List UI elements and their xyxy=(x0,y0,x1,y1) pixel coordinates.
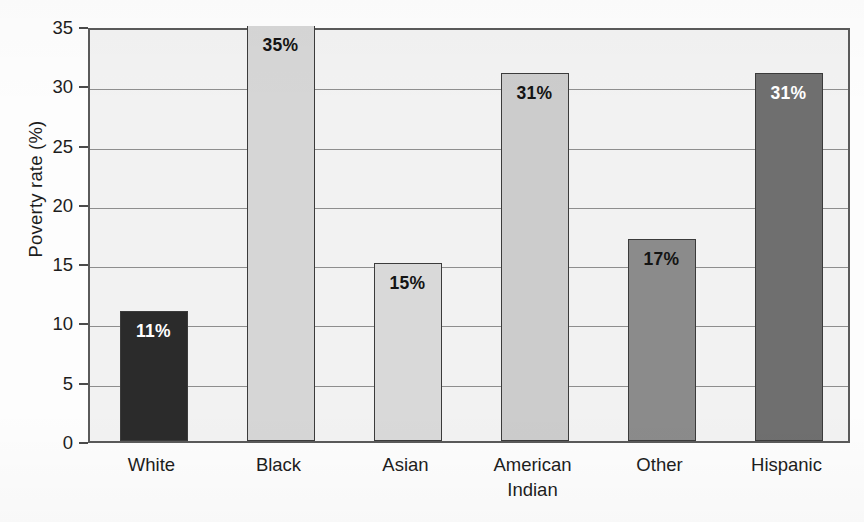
y-tick-mark xyxy=(79,383,88,385)
x-axis-category-label: American Indian xyxy=(469,452,596,502)
y-tick-mark xyxy=(79,27,88,29)
y-tick-mark xyxy=(79,146,88,148)
plot-area: 11%35%15%31%17%31% xyxy=(88,28,850,443)
y-tick-mark xyxy=(79,323,88,325)
bar-value-label: 31% xyxy=(756,83,822,104)
chart-figure: Poverty rate (%) 05101520253035 11%35%15… xyxy=(0,0,864,522)
gridline xyxy=(90,89,848,90)
y-tick-label: 0 xyxy=(25,434,73,453)
bar-value-label: 11% xyxy=(121,321,187,342)
bar-value-label: 31% xyxy=(502,83,568,104)
gridline xyxy=(90,386,848,387)
bar[interactable]: 31% xyxy=(501,73,569,441)
bar[interactable]: 35% xyxy=(247,26,315,441)
gridline xyxy=(90,149,848,150)
x-axis-category-label: Black xyxy=(215,452,342,477)
bar[interactable]: 11% xyxy=(120,311,188,441)
bar-value-label: 17% xyxy=(629,249,695,270)
plot-inner: 11%35%15%31%17%31% xyxy=(90,30,848,441)
y-tick-label: 5 xyxy=(25,375,73,394)
bar-value-label: 35% xyxy=(248,35,314,56)
bar-value-label: 15% xyxy=(375,273,441,294)
bar[interactable]: 17% xyxy=(628,239,696,441)
x-axis-category-label: White xyxy=(88,452,215,477)
y-tick-label: 25 xyxy=(25,138,73,157)
y-tick-label: 35 xyxy=(25,19,73,38)
x-axis-category-label: Asian xyxy=(342,452,469,477)
x-axis-category-label: Hispanic xyxy=(723,452,850,477)
bar[interactable]: 31% xyxy=(755,73,823,441)
y-tick-label: 10 xyxy=(25,315,73,334)
y-tick-label: 15 xyxy=(25,256,73,275)
y-tick-label: 20 xyxy=(25,197,73,216)
y-tick-label: 30 xyxy=(25,78,73,97)
gridline xyxy=(90,326,848,327)
bar[interactable]: 15% xyxy=(374,263,442,441)
y-tick-mark xyxy=(79,264,88,266)
gridline xyxy=(90,208,848,209)
y-tick-mark xyxy=(79,205,88,207)
x-axis-category-label: Other xyxy=(596,452,723,477)
y-tick-mark xyxy=(79,442,88,444)
y-tick-mark xyxy=(79,86,88,88)
gridline xyxy=(90,267,848,268)
